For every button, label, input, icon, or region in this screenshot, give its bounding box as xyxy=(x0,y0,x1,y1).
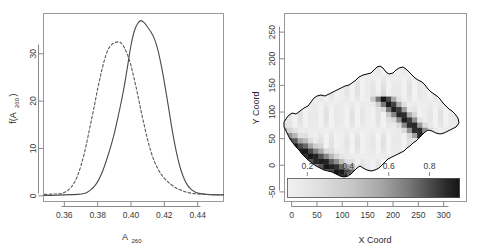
map-cell xyxy=(313,133,319,139)
map-cell xyxy=(386,76,392,82)
map-cell xyxy=(318,97,324,103)
map-cell xyxy=(407,102,413,108)
map-cell xyxy=(355,133,361,139)
map-cell xyxy=(391,97,397,103)
map-cell xyxy=(303,149,309,155)
map-cell xyxy=(412,91,418,97)
map-cell xyxy=(417,128,423,134)
map-cell xyxy=(313,112,319,118)
map-cell xyxy=(396,117,402,123)
map-cell xyxy=(370,97,376,103)
map-cell xyxy=(381,102,387,108)
map-cell xyxy=(376,128,382,134)
map-cell xyxy=(303,138,309,144)
colorbar-tick-label: 0.6 xyxy=(383,161,395,171)
density-xtick-label: 0.38 xyxy=(89,210,106,220)
map-cell xyxy=(329,107,335,113)
map-cell xyxy=(376,86,382,92)
map-cell xyxy=(396,102,402,108)
map-cell xyxy=(329,138,335,144)
map-cell xyxy=(355,117,361,123)
map-cell xyxy=(360,112,366,118)
map-cell xyxy=(344,143,350,149)
map-cell xyxy=(402,117,408,123)
map-cell xyxy=(381,76,387,82)
map-cell xyxy=(303,128,309,134)
map-cell xyxy=(298,143,304,149)
map-cell xyxy=(303,112,309,118)
map-cell xyxy=(422,123,428,129)
map-cell xyxy=(329,164,335,170)
map-cell xyxy=(412,128,418,134)
map-cell xyxy=(339,117,345,123)
map-cell xyxy=(386,128,392,134)
density-ylabel-base-a: f(A xyxy=(8,112,18,124)
map-xtick-label: 250 xyxy=(411,210,425,220)
map-cell xyxy=(376,117,382,123)
map-cell xyxy=(334,133,340,139)
map-cell xyxy=(412,117,418,123)
map-cell xyxy=(381,117,387,123)
map-cell xyxy=(370,128,376,134)
density-xlabel-base: A xyxy=(122,232,128,242)
map-ylabel: Y Coord xyxy=(251,92,261,125)
map-cell xyxy=(433,117,439,123)
map-ytick-label: 150 xyxy=(267,78,277,92)
map-cell xyxy=(433,97,439,103)
map-cell xyxy=(324,154,330,160)
map-cell xyxy=(303,123,309,129)
density-xtick-label: 0.36 xyxy=(56,210,73,220)
map-cell xyxy=(360,107,366,113)
map-ytick-label: 50 xyxy=(267,134,277,144)
map-cell xyxy=(422,102,428,108)
map-cell xyxy=(334,154,340,160)
map-cell xyxy=(318,123,324,129)
map-cell xyxy=(396,86,402,92)
map-cell xyxy=(350,154,356,160)
map-cell xyxy=(386,143,392,149)
map-cell xyxy=(292,123,298,129)
map-cell xyxy=(386,107,392,113)
map-cell xyxy=(402,76,408,82)
map-cell xyxy=(360,133,366,139)
colorbar-gradient xyxy=(287,178,460,198)
map-cell xyxy=(324,102,330,108)
map-cell xyxy=(308,154,314,160)
map-cell xyxy=(407,117,413,123)
map-cell xyxy=(313,117,319,123)
map-cell xyxy=(339,133,345,139)
map-cell xyxy=(334,149,340,155)
map-cell xyxy=(334,117,340,123)
map-cell xyxy=(313,102,319,108)
map-cell xyxy=(381,81,387,87)
map-cell xyxy=(298,138,304,144)
map-cell xyxy=(402,138,408,144)
map-cell xyxy=(355,123,361,129)
map-cell xyxy=(339,154,345,160)
map-cell xyxy=(329,149,335,155)
map-cell xyxy=(344,133,350,139)
map-cell xyxy=(386,133,392,139)
map-cell xyxy=(360,81,366,87)
map-cell xyxy=(402,128,408,134)
map-cell xyxy=(360,97,366,103)
map-cell xyxy=(370,154,376,160)
map-cell xyxy=(350,123,356,129)
map-cell xyxy=(386,81,392,87)
map-cell xyxy=(344,102,350,108)
map-cell xyxy=(417,97,423,103)
map-cell xyxy=(438,123,444,129)
map-cell xyxy=(287,117,293,123)
map-xlabel: X Coord xyxy=(358,235,391,245)
map-cell xyxy=(370,164,376,170)
map-cell xyxy=(324,138,330,144)
map-cell xyxy=(303,143,309,149)
map-cell xyxy=(381,86,387,92)
map-xtick-label: 100 xyxy=(335,210,349,220)
density-ytick-label: 0 xyxy=(28,193,38,198)
map-cell xyxy=(381,149,387,155)
map-cell xyxy=(365,133,371,139)
map-cell xyxy=(376,123,382,129)
map-cell xyxy=(324,133,330,139)
map-cell xyxy=(308,143,314,149)
